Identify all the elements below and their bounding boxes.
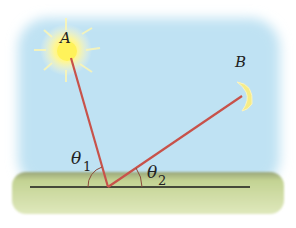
- label-theta2-subscript: 2: [158, 173, 166, 188]
- label-b: B: [234, 53, 246, 71]
- elevation-angle-diagram: A B θ 1 θ 2: [0, 0, 296, 228]
- label-theta1: θ: [71, 148, 81, 168]
- label-a: A: [58, 29, 71, 47]
- label-theta2: θ: [147, 162, 157, 182]
- label-theta1-subscript: 1: [83, 159, 91, 174]
